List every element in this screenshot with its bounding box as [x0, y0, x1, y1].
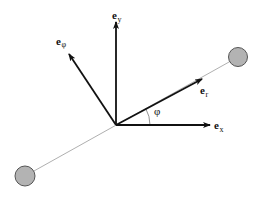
- label-e-phi-base: e: [56, 35, 61, 47]
- e-phi-arrow: [69, 54, 116, 125]
- label-e-x: ex: [214, 119, 223, 134]
- label-e-y: ey: [112, 9, 121, 24]
- label-e-r: er: [200, 84, 208, 99]
- label-e-x-sub: x: [219, 125, 223, 134]
- mass-left: [15, 166, 35, 186]
- label-e-phi: eφ: [56, 35, 66, 49]
- e-r-arrow: [116, 79, 202, 125]
- label-e-phi-sub: φ: [61, 40, 66, 49]
- label-e-x-base: e: [214, 119, 219, 131]
- label-e-r-base: e: [200, 84, 205, 96]
- mass-right: [229, 48, 248, 67]
- label-e-y-sub: y: [117, 15, 121, 24]
- polar-unit-vector-diagram: ey eφ er ex φ: [0, 0, 264, 198]
- label-e-y-base: e: [112, 9, 117, 21]
- label-e-r-sub: r: [205, 90, 208, 99]
- angle-arc: [146, 108, 150, 125]
- label-angle-phi: φ: [154, 105, 160, 117]
